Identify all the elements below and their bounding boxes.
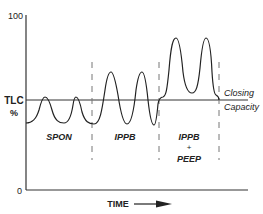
y-tick-100: 100 <box>8 11 23 21</box>
right-arrow-icon <box>134 201 172 208</box>
x-axis-label: TIME <box>107 199 129 209</box>
segment-label-spon: SPON <box>46 132 72 142</box>
closing-label: Closing <box>224 88 254 98</box>
y-axis-label-percent: % <box>10 108 18 118</box>
capacity-label: Capacity <box>224 102 260 112</box>
lung-volume-diagram: 100 0 TLC % Closing Capacity SPON IPPB I… <box>0 0 263 214</box>
y-tick-0: 0 <box>17 186 22 196</box>
segment-label-ippb: IPPB <box>114 132 136 142</box>
segment-label-ippb-peep-line1: IPPB <box>178 132 200 142</box>
segment-label-ippb-peep-plus: + <box>187 143 192 152</box>
y-axis-label-tlc: TLC <box>4 95 23 106</box>
segment-label-ippb-peep-line3: PEEP <box>177 154 202 164</box>
volume-waveform <box>26 38 219 125</box>
